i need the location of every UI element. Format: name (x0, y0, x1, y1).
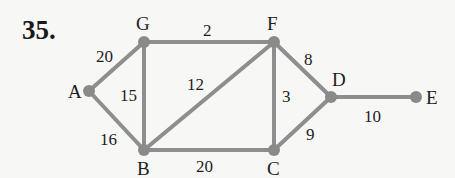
vertex-label-a: A (68, 81, 82, 102)
vertex-d (325, 91, 337, 103)
vertex-e (410, 91, 422, 103)
vertex-label-g: G (136, 13, 150, 34)
vertex-label-e: E (426, 87, 438, 108)
vertex-f (268, 36, 280, 48)
weighted-graph: 2016152122038910 AGFDEBC (0, 0, 455, 178)
edge-weight-g-f: 2 (203, 21, 212, 40)
vertex-g (138, 36, 150, 48)
vertex-label-c: C (267, 158, 280, 178)
edge-b-f (144, 42, 274, 150)
graph-diagram: 35. 2016152122038910 AGFDEBC (0, 0, 455, 178)
vertex-label-d: D (332, 69, 346, 90)
vertex-label-f: F (267, 13, 278, 34)
edge-weight-c-d: 9 (306, 125, 315, 144)
edge-weight-b-c: 20 (196, 157, 213, 176)
vertex-a (83, 85, 95, 97)
edge-weight-a-b: 16 (100, 130, 117, 149)
problem-number: 35. (22, 15, 56, 46)
vertex-label-b: B (137, 158, 150, 178)
edge-weight-a-g: 20 (96, 47, 113, 66)
vertex-b (138, 144, 150, 156)
edge-weight-f-c: 3 (282, 87, 291, 106)
edges (89, 42, 416, 150)
edge-weight-g-b: 15 (120, 86, 137, 105)
vertex-c (268, 144, 280, 156)
edge-weight-b-f: 12 (187, 75, 204, 94)
edge-weight-d-e: 10 (364, 107, 381, 126)
edge-weight-f-d: 8 (304, 50, 313, 69)
